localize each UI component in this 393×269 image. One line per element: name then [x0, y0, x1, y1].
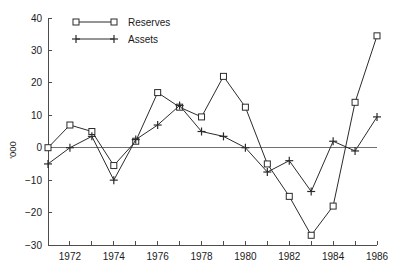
y-tick-label: −10	[25, 175, 42, 186]
data-point-marker	[67, 122, 73, 128]
data-point-marker	[155, 90, 161, 96]
data-point-marker	[374, 33, 380, 39]
x-tick-label: 1986	[366, 251, 389, 262]
legend-marker	[111, 19, 117, 25]
y-tick-label: 0	[36, 142, 42, 153]
data-point-marker	[45, 145, 51, 151]
x-tick-label: 1980	[234, 251, 257, 262]
chart-background	[0, 0, 393, 269]
y-tick-label: −30	[25, 240, 42, 251]
data-point-marker	[286, 193, 292, 199]
x-tick-label: 1974	[103, 251, 126, 262]
chart-container: −30−20−10010203040 197219741976197819801…	[0, 0, 393, 269]
data-point-marker	[199, 114, 205, 120]
data-point-marker	[111, 163, 117, 169]
data-point-marker	[308, 232, 314, 238]
data-point-marker	[264, 161, 270, 167]
legend-label: Reserves	[128, 17, 170, 28]
x-tick-label: 1984	[322, 251, 345, 262]
legend-marker	[73, 19, 79, 25]
y-tick-label: −20	[25, 207, 42, 218]
x-tick-label: 1982	[278, 251, 301, 262]
x-tick-label: 1972	[59, 251, 82, 262]
legend-label: Assets	[128, 34, 158, 45]
data-point-marker	[242, 104, 248, 110]
y-tick-label: 40	[31, 13, 43, 24]
y-axis-title: '000	[7, 141, 18, 159]
x-tick-label: 1978	[190, 251, 213, 262]
y-tick-label: 10	[31, 110, 43, 121]
y-tick-label: 20	[31, 77, 43, 88]
data-point-marker	[330, 203, 336, 209]
data-point-marker	[220, 73, 226, 79]
x-tick-label: 1976	[147, 251, 170, 262]
y-tick-label: 30	[31, 45, 43, 56]
data-point-marker	[352, 99, 358, 105]
line-chart: −30−20−10010203040 197219741976197819801…	[0, 0, 393, 269]
